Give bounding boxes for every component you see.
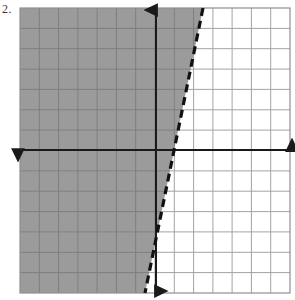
worksheet-page: 2. [0, 0, 295, 300]
graph-figure [0, 0, 295, 300]
coordinate-grid-graph [0, 0, 295, 300]
